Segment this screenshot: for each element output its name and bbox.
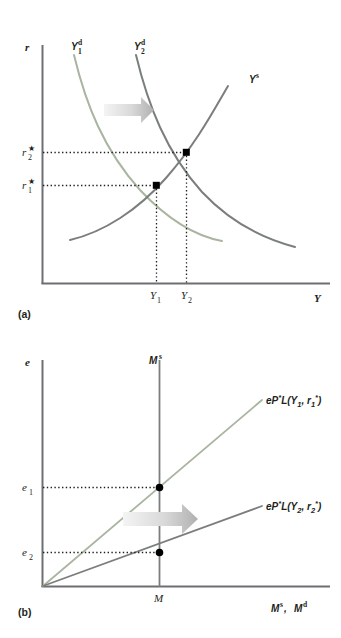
y-tick-e1-sub: 1 [29,488,33,497]
line-money-demand-1 [43,400,262,586]
panel-a-guidelines [43,152,187,283]
economics-figure: r Y Y d 1 Y d 2 Y s r 2 ★ r 1 ★ Y [0,0,341,638]
curve-demand-2 [136,55,295,247]
label-money-demand-1: eP*L(Y1, r1*) [266,393,322,409]
label-money-demand-2-text: eP*L(Y2, r2*) [266,499,322,515]
y-tick-r2: r 2 ★ [22,144,35,162]
curve-demand-1 [74,55,222,241]
y-tick-r1-star: ★ [28,177,35,186]
shift-arrow-a [104,97,154,123]
y-tick-r1-base: r [22,179,27,191]
x-axis-label-b-m2: M [294,603,303,614]
x-tick-M: M [153,592,164,604]
panel-a-caption: (a) [18,308,31,320]
curve-label-demand-2: Y d 2 [134,38,146,56]
x-axis-label-a: Y [314,292,322,304]
x-tick-Y2-sub: 2 [188,296,192,305]
x-tick-Y1-sub: 1 [157,296,161,305]
curve-label-demand-1-sub: 1 [78,47,82,56]
curve-label-supply-sup: s [256,71,259,80]
label-money-demand-2: eP*L(Y2, r2*) [266,499,322,515]
y-tick-e2: e 2 [22,546,33,562]
curve-label-supply: Y s [249,71,259,85]
y-tick-r2-star: ★ [28,144,35,153]
equilibrium-point-1 [153,182,160,189]
curve-label-demand-1: Y d 1 [71,38,83,56]
y-axis-label-a: r [25,41,30,53]
panel-b-caption: (b) [18,606,31,618]
y-tick-e2-sub: 2 [29,553,33,562]
y-tick-r2-sub: 2 [28,153,32,162]
panel-a-axes [42,45,331,284]
x-axis-label-b-sup1: s [280,600,283,609]
panel-b-money-market: e M s , M d M s eP*L(Y1, r1*) eP*L(Y2, r… [0,320,341,638]
panel-a-output-market: r Y Y d 1 Y d 2 Y s r 2 ★ r 1 ★ Y [0,0,341,320]
x-tick-Y2: Y 2 [181,289,192,305]
equilibrium-point-2 [183,149,190,156]
y-tick-e2-base: e [22,546,27,558]
x-tick-Y1: Y 1 [150,289,161,305]
rightward-shift-arrow [104,97,154,123]
y-tick-r2-base: r [22,146,27,158]
y-tick-r1-sub: 1 [28,186,32,195]
x-axis-label-b-comma: , [283,603,287,614]
x-axis-label-b: M s , M d [271,600,308,614]
label-money-supply-sup: s [159,352,162,361]
curve-label-demand-2-sub: 2 [141,47,145,56]
x-axis-label-b-m1: M [271,603,280,614]
y-tick-e1: e 1 [22,481,33,497]
y-tick-r1: r 1 ★ [22,177,35,195]
equilibrium-point-b1 [156,484,164,492]
equilibrium-point-b2 [156,549,164,557]
x-axis-label-b-sup2: d [303,600,308,609]
curve-label-demand-2-sup: d [141,38,146,47]
y-tick-e1-base: e [22,481,27,493]
label-money-supply-base: M [149,355,158,366]
y-axis-label-b: e [25,356,30,368]
label-money-demand-1-text: eP*L(Y1, r1*) [266,393,322,409]
curve-label-demand-1-sup: d [78,38,83,47]
